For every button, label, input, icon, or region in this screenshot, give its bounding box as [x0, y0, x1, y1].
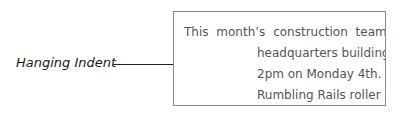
- indented-line-text: Rumbling Rails roller co: [257, 87, 386, 103]
- indented-line-text: headquarters building: [257, 45, 386, 61]
- first-line-text: This month’s construction team: [184, 24, 386, 40]
- hanging-indent-label: Hanging Indent: [16, 55, 116, 71]
- document-excerpt-box: This month’s construction team headquart…: [173, 11, 386, 106]
- indented-line-text: 2pm on Monday 4th. A: [257, 66, 386, 82]
